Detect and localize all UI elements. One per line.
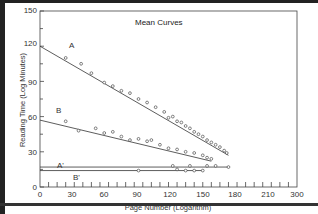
data-point [103,81,106,84]
data-point [206,139,209,142]
data-point [154,106,157,109]
data-point [111,85,114,88]
y-axis-title: Reading Time (Log Minutes) [18,52,27,147]
data-point [163,111,166,114]
chart-title: Mean Curves [135,18,183,27]
data-point [223,149,226,152]
series-group [40,46,230,172]
data-point [176,120,179,123]
curve-label-a-prime: A' [57,161,64,170]
data-point [120,135,123,138]
x-tick-30: 30 [68,190,77,199]
x-axis-ticks [49,182,289,187]
x-tick-210: 210 [261,190,275,199]
data-point [64,120,67,123]
data-point [103,132,106,135]
data-point [210,141,213,144]
x-tick-150: 150 [196,190,210,199]
data-point [146,140,149,143]
plot-area [40,11,297,187]
data-point [129,92,132,95]
data-point [197,133,200,136]
data-point [193,130,196,133]
data-point [167,147,170,150]
data-point [206,164,209,167]
data-point [184,125,187,128]
chart: 0 30 60 90 120 150 0 30 60 90 120 150 18… [0,0,318,214]
data-point [90,72,93,75]
data-point [146,101,149,104]
data-point [94,127,97,130]
data-point [189,164,192,167]
y-tick-30: 30 [28,148,37,157]
x-tick-120: 120 [163,190,177,199]
x-axis-title: Page Number (Logarithm) [125,203,212,212]
data-point [184,150,187,153]
data-point [201,169,204,172]
y-tick-60: 60 [28,113,37,122]
data-point [64,57,67,60]
data-point [201,135,204,138]
data-point [159,143,162,146]
data-point [176,168,179,171]
data-point [193,169,196,172]
data-point [171,115,174,118]
data-point [137,98,140,101]
data-point [184,169,187,172]
data-point [150,139,153,142]
x-tick-300: 300 [290,190,304,199]
data-point [137,169,140,172]
data-point [201,154,204,157]
data-point [77,129,80,132]
data-point [189,127,192,130]
fit-line-0 [40,46,228,155]
data-point [214,164,217,167]
data-point [176,148,179,151]
y-tick-150: 150 [24,6,38,15]
data-point [137,137,140,140]
x-tick-90: 90 [133,190,142,199]
data-point [180,121,183,124]
data-point [171,164,174,167]
data-point [206,156,209,159]
x-tick-0: 0 [38,190,43,199]
data-point [167,116,170,119]
curve-label-b: B [56,106,61,115]
x-tick-180: 180 [228,190,242,199]
y-tick-90: 90 [28,78,37,87]
data-point [111,130,114,133]
data-point [219,146,222,149]
data-point [214,143,217,146]
data-point [225,152,228,155]
data-point [129,139,132,142]
data-point [80,62,83,65]
data-point [227,166,230,169]
x-tick-60: 60 [100,190,109,199]
y-axis-ticks [40,11,44,187]
data-point [193,152,196,155]
curve-label-a: A [69,41,75,50]
data-point [210,157,213,160]
curve-label-b-prime: B' [73,173,80,182]
data-point [120,89,123,92]
y-tick-120: 120 [24,39,38,48]
